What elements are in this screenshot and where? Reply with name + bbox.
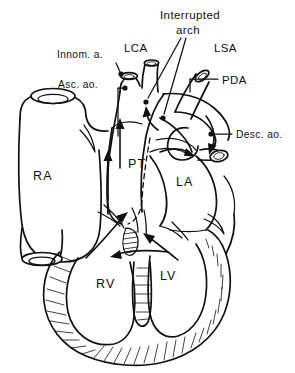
anatomical-diagram: Innom. a. Asc. ao. LCA Interrupted arch …: [0, 0, 295, 373]
label-interrupted-arch-line1: Interrupted: [160, 9, 220, 21]
ra-appendage-fold: [80, 125, 95, 152]
label-ascending-aorta: Asc. ao.: [58, 79, 98, 90]
label-patent-ductus-arteriosus: PDA: [222, 74, 247, 86]
left-carotid-artery-shape: [142, 60, 159, 92]
label-interrupted-arch-line2: arch: [176, 24, 200, 36]
label-left-subclavian-artery: LSA: [214, 42, 237, 54]
label-right-ventricle: RV: [96, 277, 115, 291]
left-atrium-shape: [150, 156, 235, 234]
label-left-ventricle: LV: [160, 269, 177, 283]
label-innominate-artery: Innom. a.: [57, 49, 103, 60]
pulmonary-trunk-shape: [107, 122, 150, 224]
ventricular-mass-shape: [44, 214, 235, 365]
vsd-hatching: [123, 232, 138, 253]
inferior-vena-cava: [21, 228, 63, 266]
label-descending-aorta: Desc. ao.: [236, 129, 283, 140]
label-left-atrium: LA: [176, 175, 194, 189]
flow-arrows: [86, 106, 217, 260]
label-right-atrium: RA: [33, 169, 53, 183]
label-left-carotid-artery: LCA: [124, 42, 148, 54]
label-pulmonary-trunk: PT: [128, 157, 146, 171]
descending-aorta-shape: [198, 149, 229, 164]
ascending-aorta-shape: [107, 92, 164, 214]
